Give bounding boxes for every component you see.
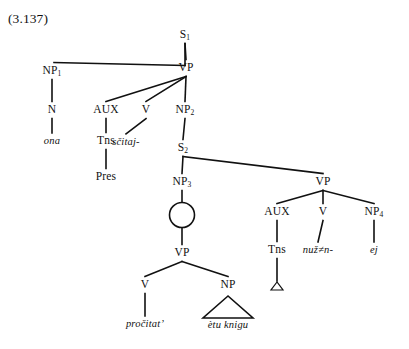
vp-right-to-np4 [323, 191, 374, 204]
shape-group [170, 203, 284, 319]
delta-empty-node-triangle [271, 282, 283, 290]
s1-to-vp-main [185, 44, 186, 60]
vp-lower-to-np5 [182, 262, 228, 277]
edge-group [52, 44, 374, 317]
np-abbreviation-triangle [203, 296, 253, 318]
vp-main-to-aux [106, 77, 186, 102]
vp-right-to-aux2 [277, 191, 323, 204]
np2-to-s2 [183, 119, 185, 140]
vp-lower-to-v3 [145, 262, 182, 277]
v2-to-nuzn [318, 221, 323, 243]
syntax-tree-figure: (3.137) S1NP1VPNAUXVNP2onaTnssčitaj-S2Pr… [0, 0, 409, 349]
vp-main-to-v [146, 77, 186, 102]
s3-circle-highlight [170, 203, 195, 228]
vp-main-to-np2 [185, 77, 186, 102]
s2-to-np3 [182, 157, 183, 174]
tree-edges-layer [0, 0, 409, 349]
v-to-scitaj [126, 119, 146, 135]
s1-to-np1-arm [54, 63, 185, 66]
s2-to-vp-right [183, 157, 323, 174]
